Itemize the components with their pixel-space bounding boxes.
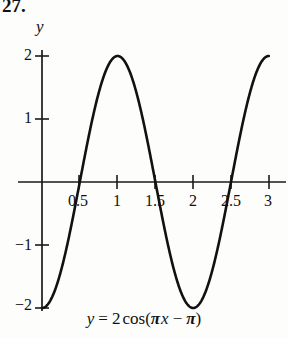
equation-minus: − <box>173 309 183 328</box>
figure-panel: 27. y 2 1 −1 −2 0.5 1 1.5 2 2.5 3 y=2cos… <box>0 0 288 339</box>
equation-amplitude: 2 <box>112 309 121 328</box>
equation-caption: y=2cos(πx−π) <box>0 309 288 329</box>
equation-pi-first: π <box>151 309 160 328</box>
equation-x: x <box>161 309 169 328</box>
equation-close-paren: ) <box>196 309 202 328</box>
plot-canvas <box>0 0 288 339</box>
equation-equals: = <box>98 309 108 328</box>
equation-function: cos <box>122 309 145 328</box>
equation-pi-second: π <box>186 309 195 328</box>
equation-lhs: y <box>87 309 95 328</box>
